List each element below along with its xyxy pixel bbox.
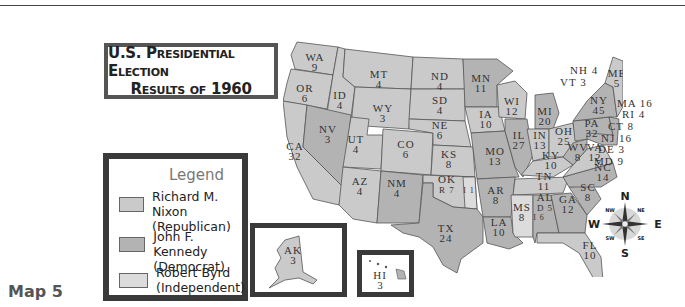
- compass-s: S: [621, 247, 629, 260]
- votes-az: 4: [357, 185, 364, 197]
- votes-mo: 13: [489, 155, 502, 167]
- legend-label: John F. Kennedy: [153, 229, 242, 259]
- callout-ri: RI 4: [622, 108, 645, 120]
- votes-mi: 20: [539, 115, 552, 127]
- votes-la: 10: [493, 226, 506, 238]
- votes-va: 12: [589, 151, 602, 163]
- legend-title: Legend: [169, 166, 224, 184]
- votes-ga: 12: [562, 203, 575, 215]
- votes-wv: 8: [575, 151, 582, 163]
- votes-ia: 10: [480, 118, 493, 130]
- hawaii-inset: HI 3: [357, 250, 414, 297]
- legend-item-nixon: Richard M. Nixon(Republican): [119, 189, 242, 234]
- legend-swatch-democrat: [119, 237, 145, 252]
- votes-nd: 4: [437, 80, 444, 92]
- legend-item-byrd: Robert Byrd(Independent): [119, 265, 245, 295]
- votes-ne: 6: [437, 129, 444, 141]
- votes-co: 6: [403, 148, 410, 160]
- votes-ut: 4: [353, 143, 360, 155]
- legend-label: Robert Byrd: [156, 265, 245, 280]
- map-title-line2: Results of 1960: [130, 80, 251, 98]
- votes-or: 6: [302, 92, 309, 104]
- votes-mn: 11: [475, 82, 488, 94]
- label-ok: OK: [438, 173, 456, 185]
- compass-ne: NE: [637, 207, 645, 213]
- votes-tx: 24: [440, 232, 453, 244]
- votes-ms: 8: [519, 211, 526, 223]
- legend-party: (Independent): [156, 280, 245, 295]
- votes-al: D 5: [537, 203, 553, 213]
- votes-il: 27: [513, 139, 526, 151]
- votes-ok: R 7: [439, 185, 455, 195]
- votes-ok-byrd: I 1: [463, 186, 475, 195]
- votes-wy: 3: [380, 112, 387, 124]
- votes-ny: 45: [593, 104, 606, 116]
- votes-wi: 12: [506, 105, 519, 117]
- label-al: AL: [537, 191, 554, 203]
- legend-swatch-republican: [119, 197, 144, 212]
- compass-w: W: [588, 218, 600, 231]
- compass-rose-icon: N S E W NW NE SW SE: [580, 190, 670, 260]
- votes-ca: 32: [289, 150, 302, 162]
- compass-n: N: [620, 190, 629, 203]
- votes-ks: 8: [446, 158, 453, 170]
- legend: Legend Richard M. Nixon(Republican) John…: [103, 153, 248, 301]
- alaska-inset: AK 3: [250, 223, 347, 297]
- legend-swatch-independent: [119, 273, 148, 288]
- map-title-box: U.S. Presidential Election Results of 19…: [104, 43, 278, 99]
- votes-hi: 3: [377, 279, 383, 291]
- votes-sd: 4: [437, 104, 444, 116]
- votes-mt: 4: [376, 78, 383, 90]
- votes-nv: 3: [325, 133, 332, 145]
- map-title-line1: U.S. Presidential Election: [108, 44, 274, 80]
- compass-se: SE: [637, 235, 645, 241]
- votes-ar: 8: [493, 194, 500, 206]
- votes-nm: 4: [394, 187, 401, 199]
- votes-me: 5: [614, 77, 621, 89]
- state-hi: [396, 269, 406, 279]
- votes-pa: 32: [586, 127, 599, 139]
- top-rule: [0, 5, 685, 6]
- compass-sw: SW: [605, 235, 615, 241]
- map-number-label: Map 5: [8, 282, 63, 301]
- votes-id: 4: [337, 99, 344, 111]
- legend-label: Richard M. Nixon: [152, 189, 242, 219]
- votes-nc: 14: [597, 171, 610, 183]
- votes-al-byrd: I 6: [533, 213, 545, 222]
- votes-wa: 9: [312, 61, 319, 73]
- votes-ak: 3: [290, 254, 296, 266]
- compass-e: E: [654, 218, 662, 231]
- compass-nw: NW: [605, 207, 615, 213]
